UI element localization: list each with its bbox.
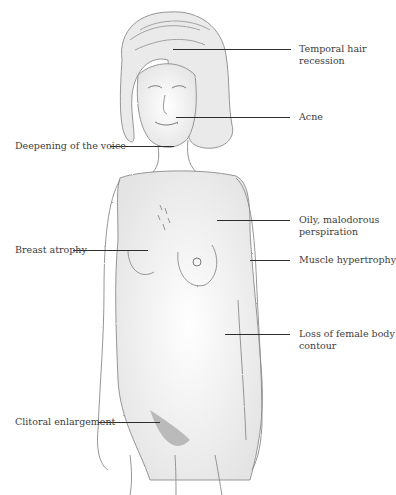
leader-line-oily-perspiration xyxy=(217,220,290,221)
leader-line-muscle-hypertrophy xyxy=(250,260,290,261)
label-line: recession xyxy=(299,55,367,67)
label-clitoral-enlargement: Clitoral enlargement xyxy=(15,416,115,428)
face-shape xyxy=(137,64,196,148)
label-line: Oily, malodorous xyxy=(299,214,380,226)
label-oily-perspiration: Oily, malodorous perspiration xyxy=(299,214,380,238)
label-temporal-hair-recession: Temporal hair recession xyxy=(299,43,367,67)
label-line: Deepening of the voice xyxy=(15,140,126,152)
label-line: perspiration xyxy=(299,226,380,238)
label-loss-body-contour: Loss of female body contour xyxy=(299,328,395,352)
leader-line-loss-body-contour xyxy=(225,334,290,335)
label-line: contour xyxy=(299,340,395,352)
label-deepening-voice: Deepening of the voice xyxy=(15,140,126,152)
label-line: Muscle hypertrophy xyxy=(299,254,396,266)
label-breast-atrophy: Breast atrophy xyxy=(15,244,87,256)
torso-shape xyxy=(116,171,263,480)
leader-line-temporal-hair xyxy=(173,49,291,50)
label-line: Breast atrophy xyxy=(15,244,87,256)
label-line: Temporal hair xyxy=(299,43,367,55)
label-line: Acne xyxy=(299,111,323,123)
label-acne: Acne xyxy=(299,111,323,123)
leader-line-acne xyxy=(176,117,290,118)
label-line: Loss of female body xyxy=(299,328,395,340)
label-line: Clitoral enlargement xyxy=(15,416,115,428)
label-muscle-hypertrophy: Muscle hypertrophy xyxy=(299,254,396,266)
